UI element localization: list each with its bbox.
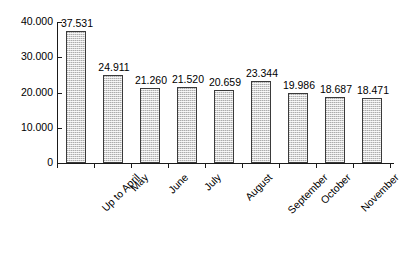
- x-axis-tick-mark: [94, 163, 95, 168]
- bar-chart: 010.00020.00030.00040.000 37.53124.91121…: [0, 0, 409, 273]
- y-axis-tick-label: 0: [47, 156, 53, 169]
- x-axis-tick-mark: [390, 163, 391, 168]
- bar: [251, 81, 271, 163]
- y-axis-tick-label: 30.000: [21, 50, 53, 63]
- y-axis-tick: 20.000: [0, 93, 62, 94]
- x-axis-category-label-text: June: [165, 171, 190, 196]
- x-axis-category-label: June: [165, 171, 190, 196]
- bar-value-label: 18.471: [338, 84, 408, 97]
- x-axis-category-label-text: November: [358, 171, 401, 214]
- bar: [103, 75, 123, 163]
- x-axis-tick-mark: [131, 163, 132, 168]
- y-axis-tick-label: 20.000: [21, 86, 53, 99]
- x-axis-tick-mark: [57, 163, 58, 168]
- x-axis-tick-mark: [168, 163, 169, 168]
- bar: [325, 97, 345, 163]
- x-axis-category-label: November: [358, 171, 401, 214]
- x-axis-tick-mark: [353, 163, 354, 168]
- bar: [177, 87, 197, 163]
- x-axis-tick-mark: [279, 163, 280, 168]
- bar-group: 37.531: [58, 22, 95, 163]
- bar: [66, 31, 86, 163]
- bar: [214, 90, 234, 163]
- y-axis-tick: 10.000: [0, 128, 62, 129]
- bar-group: 24.911: [95, 22, 132, 163]
- bar-group: 21.520: [169, 22, 206, 163]
- x-axis-tick-mark: [242, 163, 243, 168]
- x-axis-line: [57, 163, 394, 164]
- y-axis-tick: 0: [0, 163, 62, 164]
- x-axis-category-label: August: [242, 171, 274, 203]
- x-axis-tick-mark: [205, 163, 206, 168]
- y-axis-tick: 30.000: [0, 57, 62, 58]
- bar-group: 18.471: [354, 22, 391, 163]
- x-axis-category-label: July: [201, 171, 223, 193]
- bar-group: 20.659: [206, 22, 243, 163]
- y-axis-tick-label: 10.000: [21, 121, 53, 134]
- bar-group: 21.260: [132, 22, 169, 163]
- bar: [362, 98, 382, 163]
- x-axis-tick-mark: [316, 163, 317, 168]
- bar-group: 23.344: [243, 22, 280, 163]
- bar: [140, 88, 160, 163]
- bar: [288, 93, 308, 163]
- x-axis-category-label-text: July: [201, 171, 223, 193]
- plot-area: 37.53124.91121.26021.52020.65923.34419.9…: [58, 22, 394, 163]
- x-axis-category-label-text: August: [242, 171, 274, 203]
